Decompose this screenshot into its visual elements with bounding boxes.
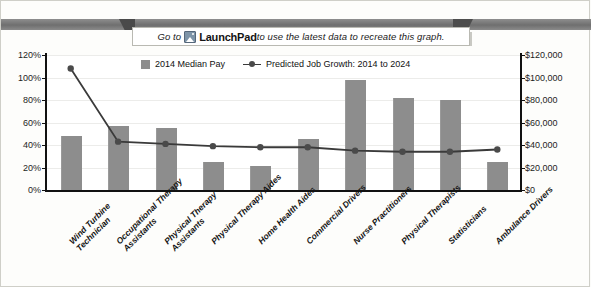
banner-text-prefix: Go to bbox=[157, 31, 181, 42]
legend-line-marker-icon bbox=[243, 60, 261, 69]
launchpad-brand[interactable]: LaunchPad bbox=[199, 31, 257, 43]
legend-item-median-pay: 2014 Median Pay bbox=[141, 59, 225, 69]
y-axis-left-tick: 120% bbox=[0, 50, 41, 60]
launchpad-banner: Go to LaunchPad to use the latest data t… bbox=[1, 13, 591, 47]
line-marker bbox=[494, 146, 500, 152]
y-axis-left-tick: 80% bbox=[0, 95, 41, 105]
y-axis-left-tick: 0% bbox=[0, 185, 41, 195]
chart-area: 120%100%80%60%40%20%0% $120,000$100,000$… bbox=[1, 47, 591, 257]
y-axis-left-tick: 100% bbox=[0, 73, 41, 83]
legend-label: Predicted Job Growth: 2014 to 2024 bbox=[266, 59, 410, 69]
growth-line bbox=[71, 69, 498, 152]
tick-mark bbox=[522, 168, 525, 169]
launchpad-image-icon bbox=[184, 31, 196, 43]
line-marker bbox=[447, 149, 453, 155]
y-axis-right-tick: $60,000 bbox=[525, 118, 587, 128]
tick-mark bbox=[522, 145, 525, 146]
legend-square-icon bbox=[141, 60, 150, 69]
tick-mark bbox=[522, 55, 525, 56]
tick-mark bbox=[522, 78, 525, 79]
ribbon-plaque[interactable]: Go to LaunchPad to use the latest data t… bbox=[132, 27, 470, 46]
line-marker bbox=[115, 138, 121, 144]
legend-item-job-growth: Predicted Job Growth: 2014 to 2024 bbox=[243, 59, 410, 69]
line-marker bbox=[257, 144, 263, 150]
tick-mark bbox=[42, 100, 45, 101]
y-axis-left-tick: 60% bbox=[0, 118, 41, 128]
y-axis-right-tick: $40,000 bbox=[525, 140, 587, 150]
line-marker bbox=[68, 65, 74, 71]
chart-legend: 2014 Median Pay Predicted Job Growth: 20… bbox=[141, 59, 410, 69]
y-axis-left bbox=[45, 53, 47, 192]
line-marker bbox=[305, 144, 311, 150]
line-marker bbox=[399, 149, 405, 155]
line-marker bbox=[210, 143, 216, 149]
tick-mark bbox=[522, 123, 525, 124]
y-axis-right-tick: $80,000 bbox=[525, 95, 587, 105]
x-axis-labels: Wind TurbineTechnicianOccupational Thera… bbox=[1, 237, 591, 287]
banner-text-suffix: to use the latest data to recreate this … bbox=[257, 31, 445, 42]
line-series bbox=[47, 55, 521, 190]
y-axis-left-tick: 20% bbox=[0, 163, 41, 173]
y-axis-right-tick: $0 bbox=[525, 185, 587, 195]
tick-mark bbox=[522, 100, 525, 101]
x-axis-label: Statisticians bbox=[446, 204, 488, 246]
tick-mark bbox=[42, 190, 45, 191]
y-axis-right-tick: $100,000 bbox=[525, 73, 587, 83]
x-axis-label-line: Statisticians bbox=[446, 204, 488, 246]
tick-mark bbox=[522, 190, 525, 191]
tick-mark bbox=[42, 78, 45, 79]
tick-mark bbox=[42, 145, 45, 146]
legend-label: 2014 Median Pay bbox=[155, 59, 225, 69]
line-marker bbox=[352, 147, 358, 153]
x-axis-label: Wind TurbineTechnician bbox=[67, 201, 119, 253]
tick-mark bbox=[42, 123, 45, 124]
tick-mark bbox=[42, 55, 45, 56]
y-axis-right-tick: $20,000 bbox=[525, 163, 587, 173]
y-axis-right-tick: $120,000 bbox=[525, 50, 587, 60]
line-marker bbox=[162, 141, 168, 147]
tick-mark bbox=[42, 168, 45, 169]
y-axis-left-tick: 40% bbox=[0, 140, 41, 150]
